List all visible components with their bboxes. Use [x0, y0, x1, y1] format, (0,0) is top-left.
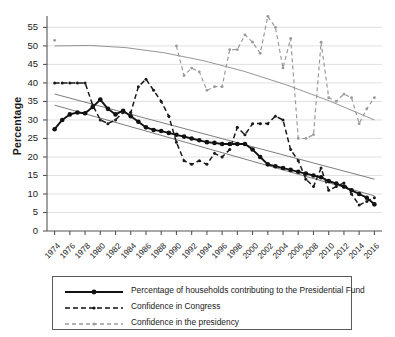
legend-swatch-icon — [63, 316, 125, 328]
chart-figure: Percentage 0510152025303540455055 197419… — [0, 0, 395, 337]
chart-legend: Percentage of households contributing to… — [52, 276, 352, 330]
legend-swatch-icon — [63, 284, 125, 296]
legend-label: Percentage of households contributing to… — [131, 285, 365, 295]
legend-item-2: Confidence in the presidency — [53, 314, 351, 330]
legend-label: Confidence in the presidency — [131, 317, 239, 327]
legend-swatch-icon — [63, 300, 125, 312]
legend-item-1: Confidence in Congress — [53, 298, 351, 314]
trend-households — [55, 94, 375, 179]
legend-label: Confidence in Congress — [131, 301, 220, 311]
legend-item-0: Percentage of households contributing to… — [53, 282, 351, 298]
